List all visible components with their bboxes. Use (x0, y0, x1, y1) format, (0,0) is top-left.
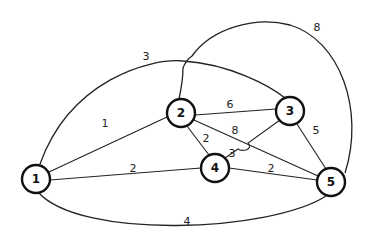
edge-2-3 (195, 109, 276, 115)
graph-canvas: 1 2 3 4 5 1 2 3 4 6 2 8 3 5 8 2 (0, 0, 376, 235)
weight-4-5: 2 (268, 162, 275, 175)
svg-text:4: 4 (211, 161, 219, 175)
weight-1-4: 2 (130, 162, 137, 175)
weight-2-4: 2 (203, 132, 210, 145)
weight-1-5: 4 (184, 215, 191, 228)
edge-1-5-arc (38, 192, 326, 226)
weight-2-5-outer: 8 (314, 21, 321, 34)
node-5[interactable]: 5 (317, 168, 345, 196)
edge-3-5 (297, 124, 326, 169)
node-2[interactable]: 2 (167, 99, 195, 127)
svg-text:1: 1 (32, 172, 40, 186)
weight-2-5: 8 (232, 124, 239, 137)
node-3[interactable]: 3 (276, 97, 304, 125)
weight-2-3: 6 (227, 98, 234, 111)
weight-3-5: 5 (313, 124, 320, 137)
weight-3-4: 3 (229, 147, 236, 160)
node-1[interactable]: 1 (22, 165, 50, 193)
weight-1-2: 1 (102, 117, 109, 130)
weight-1-3: 3 (143, 50, 150, 63)
svg-text:5: 5 (327, 175, 335, 189)
edge-1-4 (50, 168, 201, 180)
svg-text:3: 3 (286, 104, 294, 118)
node-4[interactable]: 4 (201, 154, 229, 182)
svg-text:2: 2 (177, 106, 185, 120)
